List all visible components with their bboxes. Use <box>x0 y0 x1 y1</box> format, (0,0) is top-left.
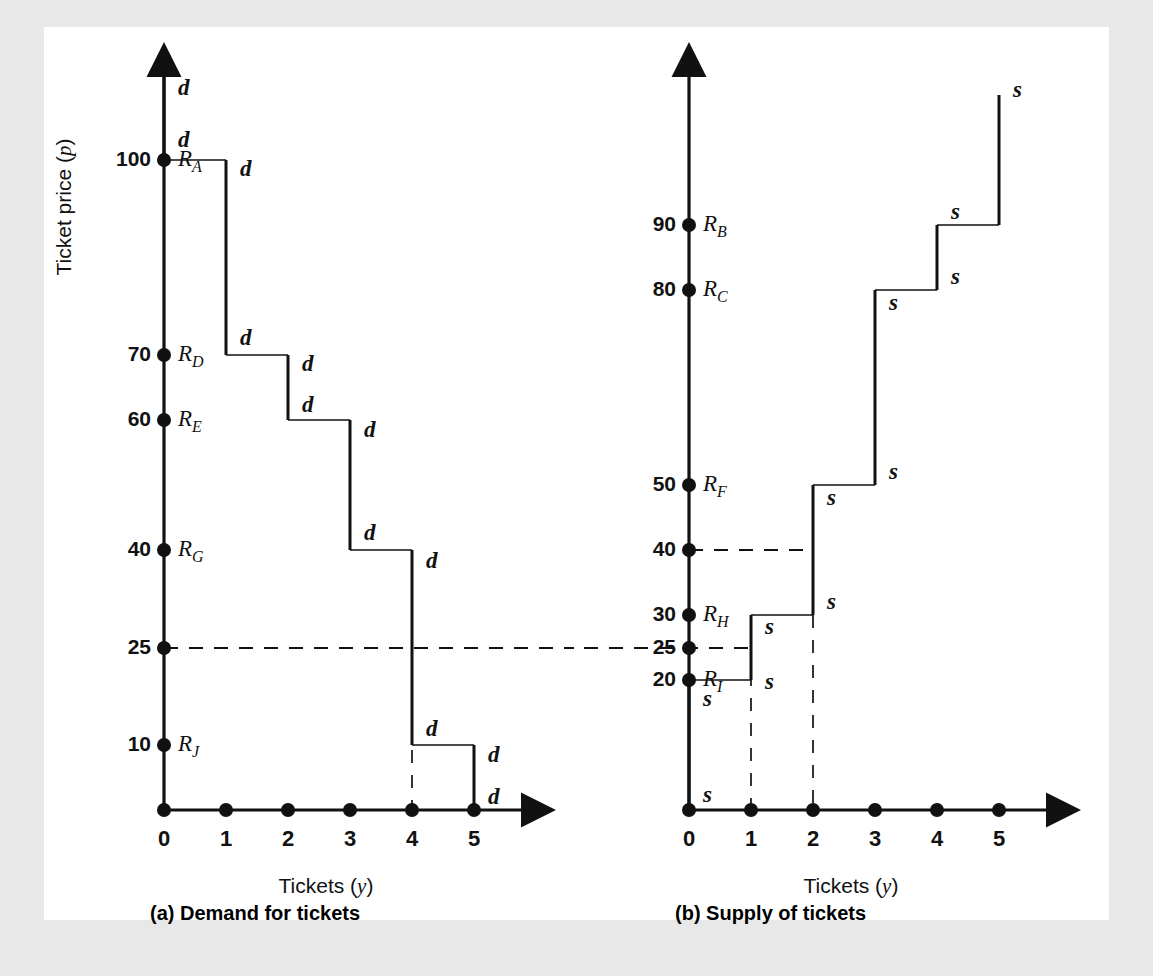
figure-frame: Ticket price (p) 100 70 60 <box>44 27 1109 920</box>
y-tick-label: 70 <box>128 342 151 365</box>
demand-chart-svg: 100 70 60 40 25 10 RA RD RE RG RJ 0 1 2 <box>54 27 574 920</box>
y-tick-dot <box>682 478 696 492</box>
y-tick-label: 80 <box>653 277 676 300</box>
y-tick-dot <box>682 218 696 232</box>
x-tick-label: 0 <box>158 826 170 851</box>
y-tick-label: 10 <box>128 732 151 755</box>
x-tick-label: 4 <box>931 826 944 851</box>
demand-curve-label: d <box>488 784 500 809</box>
x-tick-dot <box>930 803 944 817</box>
y-tick-label: 40 <box>128 537 151 560</box>
demand-curve-label: d <box>426 716 438 741</box>
supply-curve-label: s <box>764 669 774 694</box>
demand-curve-label: d <box>240 325 252 350</box>
reservation-point-label-d: RD <box>177 341 204 369</box>
y-tick-label: 25 <box>128 635 152 658</box>
y-axis-title-var: p <box>52 146 76 157</box>
x-tick-dot <box>157 803 171 817</box>
x-tick-label: 3 <box>869 826 881 851</box>
supply-chart-svg: 90 80 50 40 30 25 20 RB RC RF RH RI 0 1 <box>579 27 1099 920</box>
y-tick-label: 100 <box>116 147 151 170</box>
supply-curve-label: s <box>764 614 774 639</box>
demand-curve-label: d <box>364 417 376 442</box>
supply-curve-label: s <box>826 485 836 510</box>
supply-curve-label: s <box>950 264 960 289</box>
reservation-point-label-h: RH <box>702 601 730 629</box>
x-tick-dot <box>343 803 357 817</box>
reservation-point-label-g: RG <box>177 536 204 564</box>
x-tick-label: 2 <box>807 826 819 851</box>
supply-curve-label: s <box>1012 77 1022 102</box>
y-tick-label: 30 <box>653 602 676 625</box>
y-tick-dot <box>682 283 696 297</box>
x-tick-label: 3 <box>344 826 356 851</box>
panel-demand: Ticket price (p) 100 70 60 <box>54 27 574 920</box>
x-tick-label: 1 <box>220 826 232 851</box>
y-axis-title-text: Ticket price ( <box>52 156 75 275</box>
x-axis-title-demand: Tickets (y) <box>279 874 374 898</box>
supply-curve-label: s <box>702 686 712 711</box>
panel-caption-demand: (a) Demand for tickets <box>150 902 360 924</box>
panel-supply: 90 80 50 40 30 25 20 RB RC RF RH RI 0 1 <box>579 27 1099 920</box>
demand-curve-label: d <box>240 156 252 181</box>
x-tick-dot <box>281 803 295 817</box>
x-tick-label: 5 <box>468 826 480 851</box>
demand-curve-label: d <box>488 742 500 767</box>
demand-curve-label: d <box>302 351 314 376</box>
y-tick-dot <box>157 738 171 752</box>
y-tick-dot <box>157 413 171 427</box>
y-tick-dot <box>157 543 171 557</box>
y-tick-dot <box>682 608 696 622</box>
supply-curve-label: s <box>826 589 836 614</box>
y-tick-label: 40 <box>653 537 676 560</box>
reservation-point-label-e: RE <box>177 406 202 434</box>
supply-curve-label: s <box>702 782 712 807</box>
supply-curve-label: s <box>950 199 960 224</box>
y-tick-label: 90 <box>653 212 676 235</box>
demand-curve-label: d <box>178 75 190 100</box>
y-tick-label: 20 <box>653 667 676 690</box>
supply-curve-label: s <box>888 290 898 315</box>
panel-caption-supply: (b) Supply of tickets <box>675 902 866 924</box>
reservation-point-label-j: RJ <box>177 731 200 759</box>
y-axis-title-demand: Ticket price (p) <box>52 87 77 327</box>
x-tick-dot <box>806 803 820 817</box>
x-tick-label: 0 <box>683 826 695 851</box>
reservation-point-label-f: RF <box>702 471 727 499</box>
x-tick-dot <box>992 803 1006 817</box>
y-axis-title-close: ) <box>52 139 75 146</box>
y-tick-label: 25 <box>653 635 677 658</box>
x-axis-title-supply: Tickets (y) <box>804 874 899 898</box>
x-tick-label: 4 <box>406 826 419 851</box>
y-tick-dot <box>157 348 171 362</box>
reservation-point-label-b: RB <box>702 211 727 239</box>
demand-curve-label: d <box>178 127 190 152</box>
demand-curve-label: d <box>302 392 314 417</box>
y-tick-label: 50 <box>653 472 676 495</box>
x-tick-label: 1 <box>745 826 757 851</box>
demand-curve-label: d <box>426 548 438 573</box>
demand-curve-label: d <box>364 520 376 545</box>
x-tick-label: 5 <box>993 826 1005 851</box>
reservation-point-label-c: RC <box>702 276 728 304</box>
y-tick-label: 60 <box>128 407 151 430</box>
x-tick-label: 2 <box>282 826 294 851</box>
x-tick-dot <box>219 803 233 817</box>
supply-curve-label: s <box>888 459 898 484</box>
x-tick-dot <box>868 803 882 817</box>
